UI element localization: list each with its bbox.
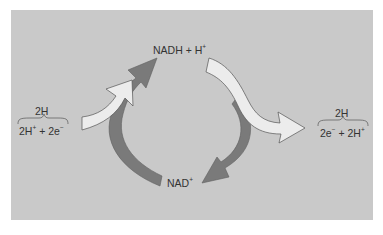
right-electron-proton-label: 2e− + 2H+ <box>320 128 365 139</box>
nadh-label: NADH + H+ <box>153 45 206 56</box>
redox-cycle-diagram <box>0 0 383 235</box>
left-proton-electron-label: 2H+ + 2e− <box>19 126 64 137</box>
hydrogen-out-arrow <box>206 58 305 143</box>
left-2h-label: 2H <box>35 106 48 117</box>
nad-plus-label: NAD+ <box>167 178 193 189</box>
reduction-cycle-arrow <box>109 58 162 186</box>
right-2h-label: 2H <box>335 108 348 119</box>
